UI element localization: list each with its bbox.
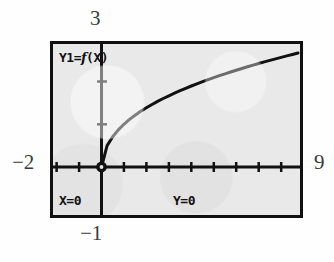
trace-y-readout: Y=0 [173, 194, 195, 207]
calculator-screenshot: 3 −2 9 −1 [0, 0, 334, 262]
x-max-label: 9 [314, 152, 325, 173]
trace-x-readout: X=0 [59, 194, 81, 207]
calculator-display-frame[interactable]: Y1=f(X) X=0 Y=0 [50, 41, 303, 218]
function-curve [102, 53, 299, 167]
x-min-label: −2 [12, 152, 34, 173]
trace-cursor[interactable] [96, 162, 107, 173]
function-label-suffix: (X) [86, 50, 108, 65]
y-min-label: −1 [80, 223, 102, 244]
graph-plot-area[interactable] [53, 44, 300, 215]
function-label-prefix: Y1= [59, 50, 81, 65]
function-label: Y1=f(X) [59, 51, 108, 64]
y-max-label: 3 [90, 8, 101, 29]
